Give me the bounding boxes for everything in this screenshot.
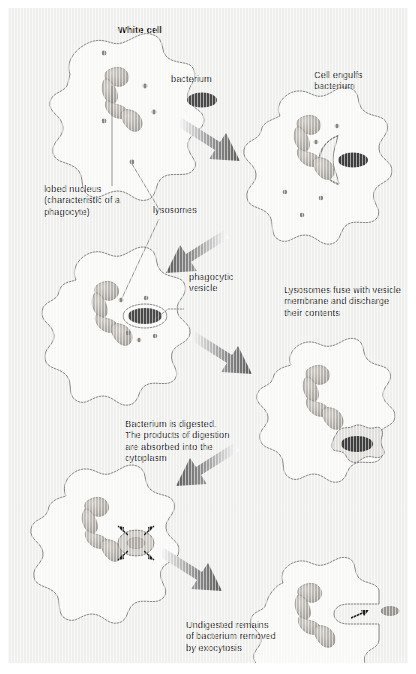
phagocytic-vesicle-3 bbox=[123, 304, 167, 328]
label-bacterium: bacterium bbox=[171, 74, 212, 85]
bacterium-at-membrane bbox=[338, 153, 368, 168]
stage-1-white-cell bbox=[50, 34, 217, 209]
label-lysosomes-fuse: Lysosomes fuse with vesicle membrane and… bbox=[284, 285, 401, 319]
process-arrow-5 bbox=[159, 548, 222, 591]
label-bacterium-digested: Bacterium is digested. The products of d… bbox=[125, 419, 229, 465]
label-undigested-remains: Undigested remains of bacterium removed … bbox=[186, 620, 276, 654]
digestion-vesicle bbox=[118, 530, 154, 556]
label-lysosomes: lysosomes bbox=[153, 205, 197, 216]
label-lobed-nucleus: lobed nucleus (characteristic of a phago… bbox=[44, 184, 120, 218]
stage-5-digestion bbox=[31, 465, 179, 623]
stage-4-lysosomes-fuse bbox=[257, 338, 395, 482]
diagram-panel: White cell bacterium Cell engulfs bacter… bbox=[8, 8, 408, 663]
label-white-cell: White cell bbox=[118, 24, 162, 35]
process-arrow-2 bbox=[166, 230, 229, 273]
exocytosis-arrow bbox=[351, 610, 369, 618]
label-phagocytic-vesicle: phagocytic vesicle bbox=[189, 272, 233, 295]
phagocytosis-illustration bbox=[8, 8, 408, 663]
digested-remains bbox=[127, 538, 145, 549]
stage-2-engulfing bbox=[244, 87, 392, 244]
stage-3-vesicle bbox=[42, 219, 190, 405]
expelled-remains bbox=[381, 607, 399, 616]
process-arrow-3 bbox=[189, 331, 252, 374]
label-cell-engulfs-bacterium: Cell engulfs bacterium bbox=[314, 70, 363, 93]
bacterium-free bbox=[187, 93, 217, 108]
bacterium-being-digested bbox=[341, 436, 373, 452]
bacterium-in-vesicle bbox=[128, 308, 162, 324]
